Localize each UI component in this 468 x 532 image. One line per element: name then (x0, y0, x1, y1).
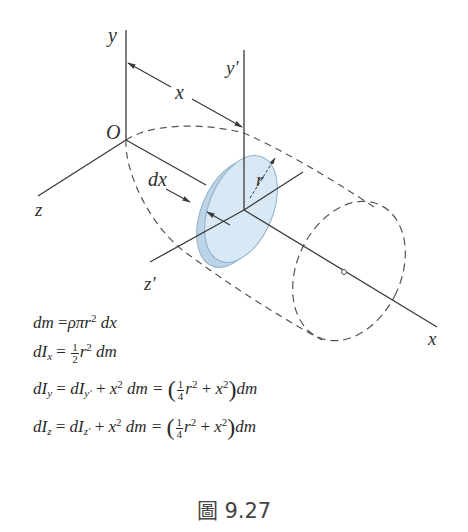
x-axis-label: x (427, 328, 437, 349)
paraboloid-base-ellipse (271, 183, 427, 359)
thin-disk-element (182, 145, 291, 278)
equation-dIy: dIy = dIy′ + x2 dm = (14r2 + x2)dm (33, 376, 257, 403)
x-distance-arrow-right (192, 99, 242, 127)
y-axis-label: y (106, 24, 117, 47)
y-prime-axis-label: y′ (224, 57, 239, 78)
origin-label: O (106, 121, 120, 143)
x-distance-arrow-left (128, 63, 171, 87)
z-axis-label: z (34, 199, 43, 220)
x-axis-far (244, 210, 437, 327)
dx-arrow-outer (166, 189, 190, 202)
figure-caption: 圖 9.27 (0, 494, 468, 524)
dx-label: dx (148, 168, 167, 190)
z-prime-axis-label: z′ (143, 273, 156, 294)
equation-dm: dm =ρπr2 dx (33, 313, 117, 333)
x-distance-label: x (174, 81, 184, 103)
equation-dIz: dIz = dIz′ + x2 dm = (14r2 + x2)dm (33, 414, 256, 441)
paraboloid-disk-diagram: y y′ x O z dx r z′ x (0, 0, 468, 532)
centroid-marker (342, 270, 347, 275)
equation-dIx: dIx = 12r2 dm (33, 342, 117, 365)
radius-label: r (256, 169, 264, 190)
z-axis (38, 140, 126, 196)
